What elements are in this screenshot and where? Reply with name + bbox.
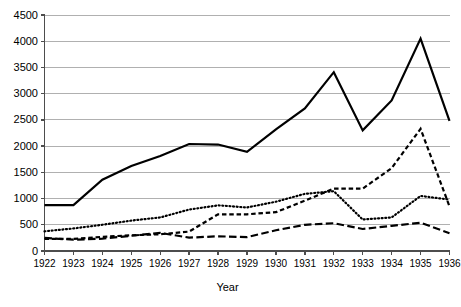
x-axis-tick-label: 1936: [438, 259, 460, 269]
x-axis-tick-label: 1925: [120, 259, 142, 269]
x-axis-tick-label: 1926: [149, 259, 171, 269]
x-axis-tick-label: 1929: [236, 259, 258, 269]
x-axis-tick-label: 1927: [178, 259, 200, 269]
x-axis-tick-label: 1932: [323, 259, 345, 269]
x-axis-tick-label: 1928: [207, 259, 229, 269]
x-axis-tick-label: 1924: [91, 259, 113, 269]
x-axis-tick-label: 1935: [409, 259, 431, 269]
x-axis-tick-label: 1933: [352, 259, 374, 269]
x-axis-tick-label: 1923: [62, 259, 84, 269]
x-axis-tick-label: 1922: [33, 259, 55, 269]
x-axis-title: Year: [0, 281, 455, 293]
x-axis-tick-label: 1931: [294, 259, 316, 269]
x-axis-tick-label: 1930: [265, 259, 287, 269]
x-axis-tick-label: 1934: [381, 259, 403, 269]
